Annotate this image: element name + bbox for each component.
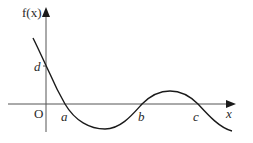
root-a-label: a [61, 109, 68, 124]
function-graph: f(x) x O d a b c [0, 0, 253, 143]
y-intercept-label: d [34, 59, 41, 74]
origin-label: O [34, 106, 43, 121]
root-b-label: b [138, 109, 145, 124]
root-c-label: c [193, 109, 199, 124]
x-axis-label: x [225, 106, 232, 121]
y-axis-label: f(x) [22, 5, 42, 20]
y-axis-arrow-icon [42, 7, 50, 17]
